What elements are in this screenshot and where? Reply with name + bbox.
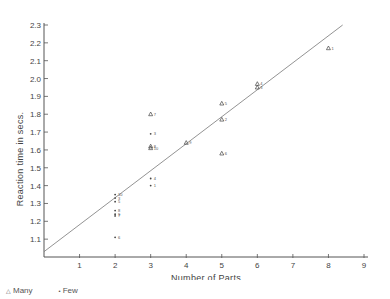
y-tick-label: 1.7 <box>30 128 42 137</box>
point-label: 3 <box>154 131 157 136</box>
y-tick-label: 2.1 <box>30 57 42 66</box>
dot-marker <box>114 213 116 215</box>
point-label: 5 <box>118 199 121 204</box>
dot-marker <box>114 194 116 196</box>
point-label: 9 <box>189 140 192 145</box>
y-axis-title: Reaction time in secs. <box>15 112 25 207</box>
y-tick-label: 2.0 <box>30 75 42 84</box>
x-tick-label: 3 <box>148 261 153 270</box>
y-tick-label: 1.4 <box>30 182 42 191</box>
triangle-marker <box>220 101 224 105</box>
triangle-marker <box>326 46 330 50</box>
x-tick-label: 9 <box>362 261 367 270</box>
y-tick-label: 1.1 <box>30 235 42 244</box>
scatter-chart: 1234567891.11.21.31.41.51.61.71.81.92.02… <box>0 0 390 280</box>
x-tick-label: 5 <box>220 261 225 270</box>
y-tick-label: 1.2 <box>30 217 42 226</box>
y-tick-label: 1.3 <box>30 199 42 208</box>
y-tick-label: 2.3 <box>30 21 42 30</box>
legend-label-many: Many <box>13 286 33 295</box>
point-label: 5 <box>225 101 228 106</box>
x-axis-title: Number of Parts <box>171 273 241 280</box>
legend-item-many: △ Many <box>6 286 33 295</box>
point-label: 1 <box>331 46 334 51</box>
y-tick-label: 2.2 <box>30 39 42 48</box>
triangle-marker <box>149 112 153 116</box>
legend-label-few: Few <box>63 286 78 295</box>
point-label: 2 <box>225 117 228 122</box>
y-tick-label: 1.8 <box>30 110 42 119</box>
triangle-marker <box>255 85 259 89</box>
x-tick-label: 8 <box>326 261 331 270</box>
x-tick-label: 1 <box>77 261 82 270</box>
point-label: 1 <box>154 183 157 188</box>
triangle-marker <box>220 151 224 155</box>
point-label: 10 <box>154 146 159 151</box>
x-tick-label: 7 <box>291 261 296 270</box>
x-tick-label: 6 <box>255 261 260 270</box>
point-label: 7 <box>154 112 157 117</box>
point-label: 6 <box>225 151 228 156</box>
regression-line <box>44 25 343 252</box>
legend-item-few: • Few <box>59 286 78 295</box>
dot-marker <box>114 236 116 238</box>
x-tick-label: 2 <box>113 261 118 270</box>
point-label: 7 <box>118 213 121 218</box>
dot-marker <box>150 178 152 180</box>
dot-marker <box>150 133 152 135</box>
y-tick-label: 1.9 <box>30 92 42 101</box>
x-tick-label: 4 <box>184 261 189 270</box>
dot-marker <box>150 185 152 187</box>
point-label: 6 <box>118 235 121 240</box>
y-tick-label: 1.5 <box>30 164 42 173</box>
point-label: 4 <box>154 176 157 181</box>
dot-icon: • <box>59 288 61 294</box>
dot-marker <box>114 201 116 203</box>
triangle-icon: △ <box>6 287 11 294</box>
dot-marker <box>114 215 116 217</box>
dot-marker <box>114 197 116 199</box>
dot-marker <box>114 210 116 212</box>
legend: △ Many • Few <box>6 286 78 295</box>
y-tick-label: 1.6 <box>30 146 42 155</box>
